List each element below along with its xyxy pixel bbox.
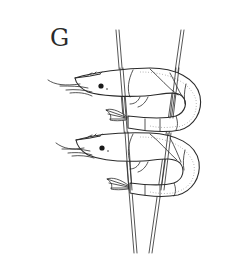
shrimp-skewer-figure: G [0, 0, 235, 265]
shrimp-skewer-illustration [0, 0, 235, 265]
